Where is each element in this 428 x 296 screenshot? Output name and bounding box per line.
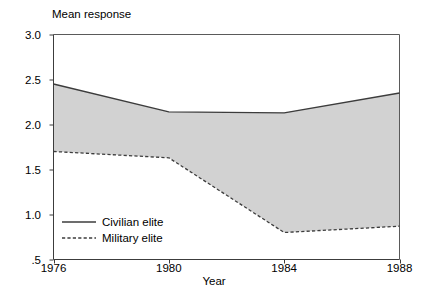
y-axis-tick-label: 2.5: [25, 74, 41, 86]
y-axis-tick-label: 2.0: [25, 119, 41, 131]
legend-swatch-dashed-line-icon: [62, 232, 96, 244]
y-axis-tick-label: 1.5: [25, 164, 41, 176]
y-axis-title: Mean response: [52, 7, 131, 21]
x-axis-tick-label: 1980: [156, 262, 182, 274]
chart-figure: Mean response 3.02.52.01.51.0.5 19761980…: [0, 0, 428, 296]
plot-area: [0, 0, 428, 296]
y-axis-tick-label: 1.0: [25, 209, 41, 221]
legend-swatch-solid-line-icon: [62, 216, 96, 228]
legend-label: Civilian elite: [102, 216, 163, 228]
series-fill-band: [54, 84, 400, 233]
legend-label: Military elite: [102, 232, 163, 244]
x-axis-tick-label: 1984: [271, 262, 297, 274]
y-axis-tick-label: 3.0: [25, 29, 41, 41]
x-axis-tick-label: 1988: [387, 262, 413, 274]
x-axis-title: Year: [0, 274, 428, 288]
x-axis-tick-label: 1976: [41, 262, 67, 274]
y-axis-tick-labels: 3.02.52.01.51.0.5: [0, 0, 41, 296]
